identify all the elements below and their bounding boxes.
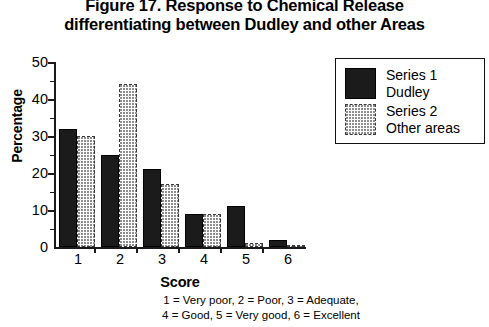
y-tick-label-20: 20 (22, 166, 48, 181)
y-tick-label-30: 30 (22, 129, 48, 144)
bar-series1-score5 (227, 206, 245, 247)
y-tick-minor-5 (50, 229, 54, 231)
y-tick-10 (48, 210, 54, 212)
y-tick-30 (48, 136, 54, 138)
legend-series-1-subname: Dudley (386, 84, 437, 101)
y-tick-20 (48, 173, 54, 175)
x-tick-label-4: 4 (184, 252, 224, 267)
y-tick-50 (48, 62, 54, 64)
bar-groups (55, 62, 306, 247)
bar-series2-score3 (161, 184, 179, 247)
y-tick-minor-35 (50, 118, 54, 120)
legend-label-series-1: Series 1 Dudley (386, 67, 437, 101)
legend-label-series-2: Series 2 Other areas (386, 103, 460, 137)
chart-legend: Series 1 Dudley Series 2 Other areas (335, 58, 485, 144)
score-key-caption: 1 = Very poor, 2 = Poor, 3 = Adequate, 4… (96, 293, 426, 323)
y-axis-tick-labels: 50 40 30 20 10 0 (22, 0, 48, 327)
x-axis-line (54, 247, 306, 249)
bar-group-3 (143, 62, 181, 247)
bar-group-4 (185, 62, 223, 247)
y-tick-40 (48, 99, 54, 101)
y-tick-minor-45 (50, 81, 54, 83)
x-tick-label-2: 2 (100, 252, 140, 267)
y-tick-label-50: 50 (22, 55, 48, 70)
y-tick-label-10: 10 (22, 203, 48, 218)
y-tick-label-0: 0 (22, 240, 48, 255)
bar-group-2 (101, 62, 139, 247)
y-tick-minor-25 (50, 155, 54, 157)
legend-swatch-series-2 (345, 104, 376, 135)
bar-series1-score6 (269, 240, 287, 247)
legend-item-series-2: Series 2 Other areas (345, 103, 460, 137)
y-tick-minor-15 (50, 192, 54, 194)
bar-series2-score4 (203, 214, 221, 247)
bar-series2-score2 (119, 84, 137, 247)
bar-series1-score4 (185, 214, 203, 247)
legend-swatch-series-1 (345, 68, 376, 99)
bar-series2-score6 (287, 245, 305, 247)
legend-series-2-subname: Other areas (386, 120, 460, 137)
bar-series2-score1 (77, 136, 95, 247)
bar-group-5 (227, 62, 265, 247)
x-tick-label-3: 3 (142, 252, 182, 267)
bar-series2-score5 (245, 243, 263, 247)
caption-line-2: 4 = Good, 5 = Very good, 6 = Excellent (96, 308, 426, 323)
legend-series-1-name: Series 1 (386, 67, 437, 84)
bar-series1-score1 (59, 129, 77, 247)
chart-root: Figure 17. Response to Chemical Release … (0, 0, 489, 327)
legend-item-series-1: Series 1 Dudley (345, 67, 437, 101)
x-axis-label: Score (54, 274, 306, 290)
x-tick-label-5: 5 (226, 252, 266, 267)
bar-series1-score2 (101, 155, 119, 248)
legend-series-2-name: Series 2 (386, 103, 460, 120)
bar-group-6 (269, 62, 307, 247)
caption-line-1: 1 = Very poor, 2 = Poor, 3 = Adequate, (96, 293, 426, 308)
bar-group-1 (59, 62, 97, 247)
x-tick-label-1: 1 (58, 252, 98, 267)
y-tick-label-40: 40 (22, 92, 48, 107)
x-tick-label-6: 6 (268, 252, 308, 267)
bar-series1-score3 (143, 169, 161, 247)
plot-area: Percentage 50 40 30 20 10 0 (0, 0, 489, 327)
